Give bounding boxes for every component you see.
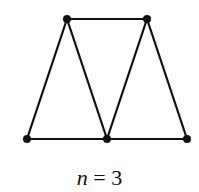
graph-diagram	[0, 0, 199, 192]
vertex-d	[103, 135, 111, 143]
vertex-a	[63, 15, 71, 23]
edge-b-d	[107, 19, 147, 139]
edge-b-e	[147, 19, 187, 139]
vertex-b	[143, 15, 151, 23]
caption-equals: =	[88, 165, 111, 190]
caption: n = 3	[0, 165, 199, 191]
edge-a-d	[67, 19, 107, 139]
caption-value: 3	[111, 165, 122, 190]
edge-a-c	[27, 19, 67, 139]
caption-variable: n	[77, 165, 88, 190]
vertex-e	[183, 135, 191, 143]
vertex-c	[23, 135, 31, 143]
